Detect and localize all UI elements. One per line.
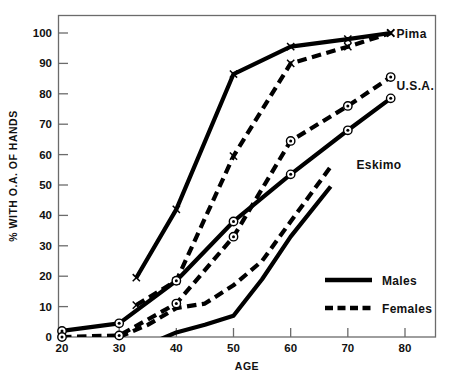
- x-tick-label: 60: [284, 342, 297, 354]
- data-series-group: [62, 33, 391, 345]
- marker-circle-dot: [172, 277, 180, 285]
- plot-frame: [59, 16, 436, 338]
- y-tick-label: 90: [39, 57, 52, 69]
- y-tick-label: 0: [46, 331, 52, 343]
- marker-circle-dot: [172, 299, 180, 307]
- series-line-u-s-a-females: [62, 77, 391, 337]
- y-axis-ticks: [59, 33, 69, 337]
- osteoarthritis-prevalence-line-chart: 20304050607080 0102030405060708090100 Pi…: [0, 0, 449, 387]
- series-line-u-s-a-males: [62, 98, 391, 331]
- y-tick-label: 80: [39, 88, 52, 100]
- annotation-eskimo: Eskimo: [356, 158, 401, 172]
- y-tick-label: 30: [39, 240, 52, 252]
- x-tick-label: 30: [113, 342, 126, 354]
- marker-circle-dot: [387, 94, 395, 102]
- y-tick-label: 50: [39, 179, 52, 191]
- chart-container: 20304050607080 0102030405060708090100 Pi…: [0, 0, 449, 387]
- marker-circle-dot: [229, 232, 237, 240]
- y-tick-label: 70: [39, 118, 52, 130]
- y-tick-label: 10: [39, 301, 52, 313]
- x-tick-label: 50: [227, 342, 240, 354]
- x-tick-label: 70: [341, 342, 354, 354]
- marker-circle-dot: [344, 126, 352, 134]
- marker-circle-dot: [286, 137, 294, 145]
- marker-circle-dot: [115, 319, 123, 327]
- y-tick-label: 20: [39, 270, 52, 282]
- y-axis-title: % WITH O.A. OF HANDS: [7, 110, 19, 241]
- marker-circle-dot: [387, 73, 395, 81]
- x-tick-label: 20: [56, 342, 69, 354]
- y-tick-label: 100: [33, 27, 52, 39]
- series-line-pima-females: [136, 33, 390, 305]
- marker-circle-dot: [286, 170, 294, 178]
- y-tick-label: 60: [39, 149, 52, 161]
- x-tick-label: 80: [399, 342, 412, 354]
- y-tick-label: 40: [39, 209, 52, 221]
- series-line-pima-males: [136, 33, 390, 278]
- marker-circle-dot: [115, 331, 123, 339]
- legend-label-males: Males: [382, 274, 417, 288]
- annotation-u-s-a: U.S.A.: [396, 79, 434, 93]
- y-axis-tick-labels: 0102030405060708090100: [33, 27, 52, 343]
- chart-legend: Males Females: [325, 274, 432, 316]
- x-axis-tick-labels: 20304050607080: [56, 342, 412, 354]
- annotation-pima: Pima: [396, 27, 426, 41]
- marker-circle-dot: [344, 102, 352, 110]
- x-axis-title: AGE: [235, 360, 259, 372]
- legend-label-females: Females: [382, 302, 432, 316]
- x-tick-label: 40: [170, 342, 183, 354]
- marker-circle-dot: [229, 217, 237, 225]
- marker-circle-dot: [58, 333, 66, 341]
- data-point-markers-group: [58, 29, 395, 341]
